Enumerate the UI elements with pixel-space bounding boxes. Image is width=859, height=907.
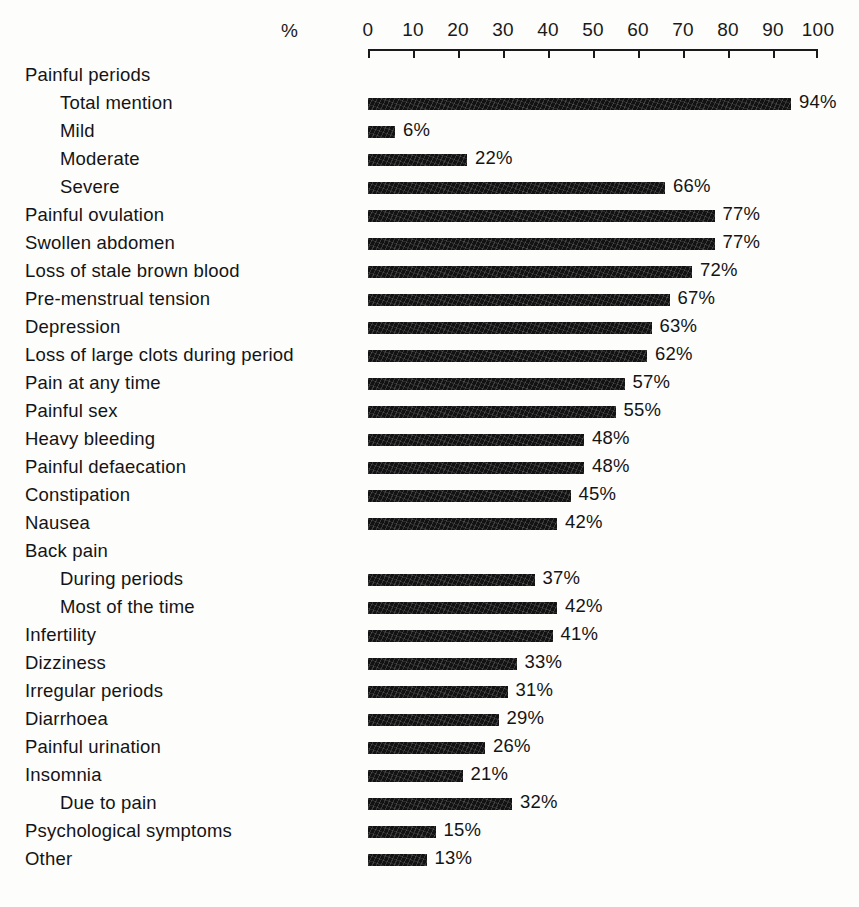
bar-row: Pre-menstrual tension67% (0, 286, 859, 314)
axis-tick-label: 30 (492, 19, 514, 41)
bar-row-label: Psychological symptoms (25, 820, 232, 842)
bar-row: Pain at any time57% (0, 370, 859, 398)
bar-row-label: Dizziness (25, 652, 106, 674)
bar-row: Painful ovulation77% (0, 202, 859, 230)
group-header-label: Back pain (25, 540, 108, 562)
bar-row-label: Painful defaecation (25, 456, 186, 478)
bar-row: Due to pain32% (0, 790, 859, 818)
bar (368, 266, 692, 278)
bar-value-label: 94% (799, 91, 837, 113)
bar-value-label: 62% (655, 343, 693, 365)
bar-row-label: Painful ovulation (25, 204, 164, 226)
bar-row-label: Due to pain (60, 792, 157, 814)
axis-tick-mark (548, 49, 550, 58)
axis-tick-labels: 0102030405060708090100 (368, 19, 818, 43)
bar-row-label: Loss of stale brown blood (25, 260, 240, 282)
bar-value-label: 67% (678, 287, 716, 309)
bar-row-label: Painful sex (25, 400, 118, 422)
axis-tick-mark (413, 49, 415, 58)
bar-row-label: Loss of large clots during period (25, 344, 294, 366)
bar (368, 826, 436, 838)
bar-row-label: Pre-menstrual tension (25, 288, 210, 310)
bar (368, 98, 791, 110)
group-header-row: Painful periods (0, 62, 859, 90)
bar-row: Swollen abdomen77% (0, 230, 859, 258)
bar-row-label: Swollen abdomen (25, 232, 175, 254)
bar-row-label: Depression (25, 316, 121, 338)
bar-row: Loss of large clots during period62% (0, 342, 859, 370)
bar-value-label: 32% (520, 791, 558, 813)
bar-value-label: 22% (475, 147, 513, 169)
axis-tick-mark (773, 49, 775, 58)
bar-row: Psychological symptoms15% (0, 818, 859, 846)
bar (368, 238, 715, 250)
bar-value-label: 31% (516, 679, 554, 701)
bar (368, 210, 715, 222)
bar-value-label: 77% (723, 203, 761, 225)
axis-tick-mark (728, 49, 730, 58)
bar-row: Severe66% (0, 174, 859, 202)
bar-value-label: 21% (471, 763, 509, 785)
axis-tick-mark (458, 49, 460, 58)
bar (368, 182, 665, 194)
bar-row: Heavy bleeding48% (0, 426, 859, 454)
bar (368, 798, 512, 810)
bar-row-label: Pain at any time (25, 372, 161, 394)
bar-value-label: 72% (700, 259, 738, 281)
bar-value-label: 48% (592, 427, 630, 449)
bar (368, 518, 557, 530)
bar-row: Loss of stale brown blood72% (0, 258, 859, 286)
axis-tick-label: 0 (363, 19, 374, 41)
bar-value-label: 57% (633, 371, 671, 393)
bar-row: Moderate22% (0, 146, 859, 174)
bar-row-label: Painful urination (25, 736, 161, 758)
bar (368, 602, 557, 614)
bar (368, 714, 499, 726)
bar-value-label: 63% (660, 315, 698, 337)
bar-row-label: Mild (60, 120, 95, 142)
bar (368, 574, 535, 586)
bar-row-label: During periods (60, 568, 183, 590)
bar-value-label: 13% (435, 847, 473, 869)
bar (368, 742, 485, 754)
x-axis (368, 49, 818, 59)
bar-row: Painful urination26% (0, 734, 859, 762)
bar-row: Nausea42% (0, 510, 859, 538)
bar-row-label: Diarrhoea (25, 708, 108, 730)
axis-tick-label: 90 (762, 19, 784, 41)
axis-tick-mark (368, 49, 370, 58)
bar-chart: % 0102030405060708090100 Painful periods… (0, 0, 859, 907)
bar (368, 770, 463, 782)
axis-tick-label: 50 (582, 19, 604, 41)
bar-value-label: 41% (561, 623, 599, 645)
bar-row-label: Total mention (60, 92, 173, 114)
group-header-label: Painful periods (25, 64, 150, 86)
bar-row: Total mention94% (0, 90, 859, 118)
bar-row: Mild6% (0, 118, 859, 146)
bar-row: Diarrhoea29% (0, 706, 859, 734)
bar-value-label: 6% (403, 119, 430, 141)
bar-row-label: Heavy bleeding (25, 428, 155, 450)
bar-value-label: 42% (565, 595, 603, 617)
axis-tick-label: 100 (802, 19, 835, 41)
bar (368, 854, 427, 866)
bar-row: Other13% (0, 846, 859, 874)
bar-row-label: Severe (60, 176, 120, 198)
axis-tick-mark (638, 49, 640, 58)
bar (368, 462, 584, 474)
bar (368, 630, 553, 642)
bar (368, 126, 395, 138)
bar-row: Infertility41% (0, 622, 859, 650)
bar-row-label: Insomnia (25, 764, 102, 786)
bar (368, 350, 647, 362)
axis-tick-label: 70 (672, 19, 694, 41)
bar (368, 154, 467, 166)
bar-row: Depression63% (0, 314, 859, 342)
axis-tick-label: 40 (537, 19, 559, 41)
axis-tick-mark (816, 49, 818, 58)
bar-row: Most of the time42% (0, 594, 859, 622)
bar-row-label: Infertility (25, 624, 96, 646)
bar-row: Painful defaecation48% (0, 454, 859, 482)
group-header-row: Back pain (0, 538, 859, 566)
bar-value-label: 29% (507, 707, 545, 729)
